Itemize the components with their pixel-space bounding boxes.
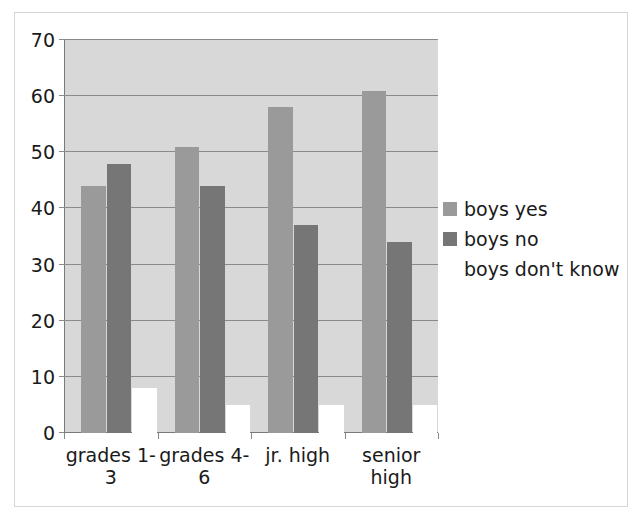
legend-swatch-icon — [443, 262, 457, 276]
y-tick-label-60: 60 — [31, 87, 55, 106]
x-tick-mark — [438, 433, 439, 439]
y-tick-label-10: 10 — [31, 367, 55, 386]
bar — [362, 91, 387, 433]
bar — [81, 186, 106, 433]
y-tick-label-30: 30 — [31, 255, 55, 274]
x-tick-label: senior high — [345, 445, 439, 489]
bar-group-inner — [251, 40, 345, 433]
bar — [107, 164, 132, 433]
x-tick-label: grades 4-6 — [158, 445, 252, 489]
y-tick-label-20: 20 — [31, 311, 55, 330]
bar-group-inner — [64, 40, 158, 433]
bar-group-inner — [345, 40, 439, 433]
legend-swatch-icon — [443, 232, 457, 246]
x-tick-mark — [345, 433, 346, 439]
y-tick-label-70: 70 — [31, 31, 55, 50]
x-tick-label: grades 1-3 — [64, 445, 158, 489]
y-tick-label-0: 0 — [43, 424, 55, 443]
bar — [200, 186, 225, 433]
bar-group — [158, 40, 252, 433]
bar — [294, 225, 319, 433]
legend-item: boys no — [443, 226, 623, 252]
bar-group — [345, 40, 439, 433]
bar — [413, 405, 438, 433]
x-tick-label: jr. high — [251, 445, 345, 467]
chart-legend: boys yesboys noboys don't know — [443, 196, 623, 286]
bar-group — [251, 40, 345, 433]
y-tick-label-50: 50 — [31, 143, 55, 162]
bar-group — [64, 40, 158, 433]
bar — [268, 107, 293, 433]
legend-label: boys don't know — [464, 260, 620, 279]
bar-group-inner — [158, 40, 252, 433]
bar — [132, 388, 157, 433]
legend-label: boys no — [464, 230, 539, 249]
bar — [175, 147, 200, 433]
legend-item: boys don't know — [443, 256, 623, 282]
x-tick-mark — [158, 433, 159, 439]
legend-item: boys yes — [443, 196, 623, 222]
bar — [226, 405, 251, 433]
x-tick-mark — [251, 433, 252, 439]
legend-swatch-icon — [443, 202, 457, 216]
x-tick-mark — [64, 433, 65, 439]
bar — [319, 405, 344, 433]
plot-wrapper: 010203040506070 grades 1-3grades 4-6jr. … — [64, 40, 438, 433]
chart-figure: 010203040506070 grades 1-3grades 4-6jr. … — [14, 12, 628, 507]
legend-label: boys yes — [464, 200, 548, 219]
bar — [387, 242, 412, 433]
y-tick-label-40: 40 — [31, 199, 55, 218]
